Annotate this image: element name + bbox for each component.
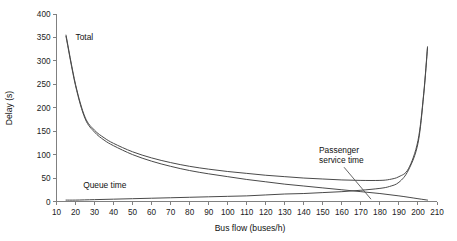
line-chart: 050100150200250300350400 102030405060708… bbox=[0, 0, 457, 241]
x-axis: 1020304050607080901001101201301401501601… bbox=[52, 202, 444, 217]
x-tick-label: 50 bbox=[128, 208, 138, 217]
y-tick-label: 50 bbox=[41, 174, 51, 183]
x-tick-label: 210 bbox=[430, 208, 444, 217]
series-line-queue-time bbox=[66, 48, 427, 200]
x-tick-label: 60 bbox=[147, 208, 157, 217]
x-tick-label: 20 bbox=[71, 208, 81, 217]
x-tick-label: 80 bbox=[185, 208, 195, 217]
y-tick-label: 0 bbox=[46, 198, 51, 207]
x-tick-label: 180 bbox=[373, 208, 387, 217]
x-tick-label: 120 bbox=[259, 208, 273, 217]
series-line-total bbox=[66, 35, 427, 180]
y-axis: 050100150200250300350400 bbox=[37, 10, 57, 207]
y-tick-label: 200 bbox=[37, 104, 51, 113]
chart-container: 050100150200250300350400 102030405060708… bbox=[0, 0, 457, 241]
y-axis-title: Delay (s) bbox=[4, 91, 14, 126]
y-tick-label: 150 bbox=[37, 127, 51, 136]
x-tick-label: 160 bbox=[335, 208, 349, 217]
y-tick-label: 400 bbox=[37, 10, 51, 19]
x-tick-label: 190 bbox=[392, 208, 406, 217]
y-tick-label: 250 bbox=[37, 80, 51, 89]
x-tick-label: 90 bbox=[204, 208, 214, 217]
annotation-leader-line bbox=[344, 167, 371, 199]
annotation-total: Total bbox=[76, 32, 94, 42]
x-tick-label: 130 bbox=[278, 208, 292, 217]
x-tick-label: 100 bbox=[221, 208, 235, 217]
series-annotations: TotalPassengerservice timeQueue time bbox=[76, 32, 372, 199]
data-series-group bbox=[66, 35, 427, 200]
x-tick-label: 170 bbox=[354, 208, 368, 217]
y-tick-label: 300 bbox=[37, 57, 51, 66]
x-tick-label: 40 bbox=[109, 208, 119, 217]
y-tick-label: 350 bbox=[37, 33, 51, 42]
annotation-passenger-service-time: Passengerservice time bbox=[319, 145, 364, 165]
x-tick-label: 140 bbox=[297, 208, 311, 217]
x-tick-label: 70 bbox=[166, 208, 176, 217]
y-tick-label: 100 bbox=[37, 151, 51, 160]
x-axis-title: Bus flow (buses/h) bbox=[215, 223, 286, 233]
x-tick-label: 200 bbox=[411, 208, 425, 217]
x-tick-label: 30 bbox=[90, 208, 100, 217]
series-line-passenger-service-time bbox=[66, 37, 427, 201]
x-tick-label: 10 bbox=[52, 208, 62, 217]
x-tick-label: 150 bbox=[316, 208, 330, 217]
annotation-queue-time: Queue time bbox=[83, 180, 127, 190]
x-tick-label: 110 bbox=[240, 208, 253, 217]
